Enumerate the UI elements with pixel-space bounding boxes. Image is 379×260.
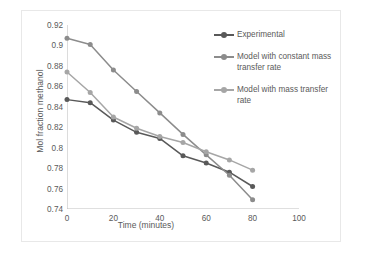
data-point-marker [88, 42, 93, 47]
y-tick-label: 0.88 [47, 61, 63, 70]
x-tick-label: 0 [65, 214, 70, 223]
legend-marker-icon [214, 30, 234, 40]
legend-entry-2[interactable]: Model with constant mass transfer rate [214, 51, 338, 73]
data-point-marker [111, 67, 116, 72]
legend-marker-icon [214, 85, 234, 95]
y-tick-label: 0.92 [47, 21, 63, 30]
data-point-marker [157, 134, 162, 139]
x-tick-label: 40 [155, 214, 164, 223]
data-point-marker [111, 115, 116, 120]
legend-marker-icon [214, 52, 234, 62]
x-tick-label: 80 [248, 214, 257, 223]
data-point-marker [88, 90, 93, 95]
legend-label: Model with constant mass transfer rate [237, 51, 338, 73]
data-point-marker [250, 197, 255, 202]
data-point-marker [88, 100, 93, 105]
chart-figure: Mol fraction methanol Time (minutes) 0.7… [21, 10, 341, 242]
x-axis-title: Time (minutes) [46, 220, 246, 230]
legend-label: Experimental [237, 29, 285, 40]
data-point-marker [157, 110, 162, 115]
legend-dot [221, 54, 227, 60]
y-tick-label: 0.74 [47, 205, 63, 214]
y-tick-label: 0.78 [47, 164, 63, 173]
data-point-marker [250, 184, 255, 189]
y-tick-label: 0.8 [52, 143, 63, 152]
legend-label: Model with mass transfer rate [237, 84, 338, 106]
data-point-marker [204, 149, 209, 154]
y-axis-title: Mol fraction methanol [35, 41, 45, 181]
data-point-marker [181, 153, 186, 158]
y-tick-label: 0.82 [47, 123, 63, 132]
data-point-marker [204, 161, 209, 166]
legend-entry-3[interactable]: Model with mass transfer rate [214, 84, 338, 106]
y-tick-label: 0.86 [47, 82, 63, 91]
legend-entry-1[interactable]: Experimental [214, 29, 338, 40]
data-point-marker [181, 140, 186, 145]
data-point-marker [227, 157, 232, 162]
y-tick-label: 0.84 [47, 102, 63, 111]
chart-legend: ExperimentalModel with constant mass tra… [214, 29, 338, 117]
x-tick-label: 20 [109, 214, 118, 223]
legend-dot [221, 32, 227, 38]
y-tick-label: 0.9 [52, 41, 63, 50]
x-tick-label: 60 [202, 214, 211, 223]
data-point-marker [227, 173, 232, 178]
data-point-marker [250, 168, 255, 173]
x-tick-label: 100 [292, 214, 306, 223]
data-point-marker [134, 89, 139, 94]
data-point-marker [65, 70, 70, 75]
data-point-marker [181, 132, 186, 137]
data-point-marker [134, 126, 139, 131]
y-tick-label: 0.76 [47, 184, 63, 193]
data-point-marker [65, 36, 70, 41]
data-point-marker [65, 97, 70, 102]
legend-dot [221, 87, 227, 93]
